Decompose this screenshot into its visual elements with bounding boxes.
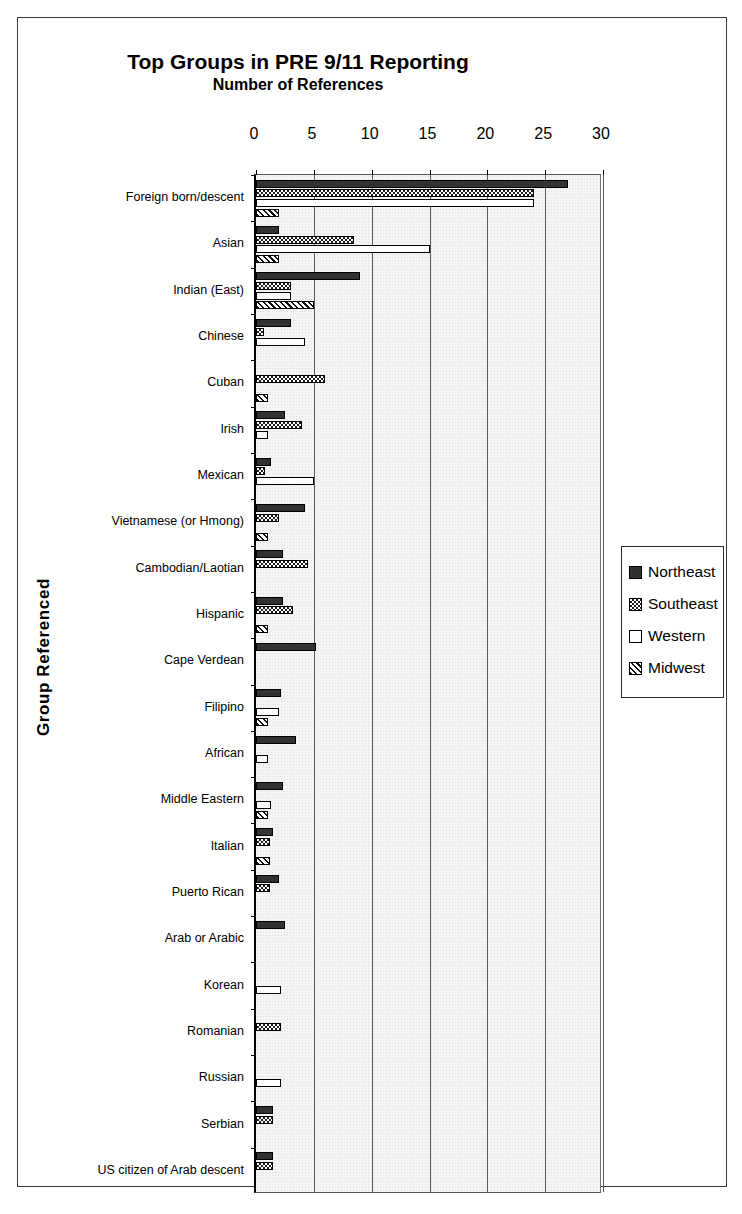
y-axis-label: Cambodian/Laotian bbox=[18, 561, 244, 575]
y-axis-label: Romanian bbox=[18, 1024, 244, 1038]
bar-southeast-9 bbox=[256, 606, 293, 614]
y-axis-label: African bbox=[18, 746, 244, 760]
y-axis-label: Middle Eastern bbox=[18, 792, 244, 806]
gridline-x-10 bbox=[372, 175, 373, 1192]
bar-western-2 bbox=[256, 292, 291, 300]
x-axis-tick-labels: 051015202530 bbox=[237, 125, 603, 147]
bar-midwest-9 bbox=[256, 625, 268, 633]
y-tick-19 bbox=[251, 1055, 256, 1056]
legend-item-midwest[interactable]: Midwest bbox=[629, 652, 723, 684]
legend-label: Western bbox=[648, 627, 705, 645]
bar-northeast-20 bbox=[256, 1106, 273, 1114]
bar-western-1 bbox=[256, 245, 430, 253]
y-tick-4 bbox=[251, 360, 256, 361]
bar-northeast-21 bbox=[256, 1152, 273, 1160]
bar-northeast-7 bbox=[256, 504, 305, 512]
bar-western-17 bbox=[256, 986, 281, 994]
y-axis-label: Vietnamese (or Hmong) bbox=[18, 514, 244, 528]
y-tick-9 bbox=[251, 592, 256, 593]
y-axis-label: Filipino bbox=[18, 700, 244, 714]
bar-western-0 bbox=[256, 199, 534, 207]
y-tick-10 bbox=[251, 638, 256, 639]
legend-swatch-icon bbox=[629, 630, 642, 643]
bar-southeast-7 bbox=[256, 514, 279, 522]
bar-western-6 bbox=[256, 477, 314, 485]
legend-label: Northeast bbox=[648, 563, 715, 581]
bar-northeast-0 bbox=[256, 180, 568, 188]
x-tick-15 bbox=[430, 170, 431, 175]
y-axis-label: Chinese bbox=[18, 329, 244, 343]
x-tick-label-5: 5 bbox=[295, 125, 329, 143]
legend-label: Southeast bbox=[648, 595, 718, 613]
bar-southeast-5 bbox=[256, 421, 302, 429]
y-axis-label: Indian (East) bbox=[18, 283, 244, 297]
y-tick-13 bbox=[251, 777, 256, 778]
y-tick-5 bbox=[251, 407, 256, 408]
y-tick-15 bbox=[251, 870, 256, 871]
plot-area bbox=[254, 174, 601, 1193]
bar-western-5 bbox=[256, 431, 268, 439]
y-axis-label: Korean bbox=[18, 978, 244, 992]
bar-northeast-16 bbox=[256, 921, 285, 929]
gridline-x-15 bbox=[430, 175, 431, 1192]
y-axis-label: Cuban bbox=[18, 375, 244, 389]
legend: NortheastSoutheastWesternMidwest bbox=[621, 546, 724, 698]
gridline-x-20 bbox=[487, 175, 488, 1192]
y-axis-label: Arab or Arabic bbox=[18, 931, 244, 945]
bar-northeast-13 bbox=[256, 782, 283, 790]
chart-frame: Top Groups in PRE 9/11 Reporting Number … bbox=[17, 17, 727, 1187]
bar-southeast-21 bbox=[256, 1162, 273, 1170]
bar-northeast-12 bbox=[256, 736, 296, 744]
plot-background-texture bbox=[256, 175, 600, 1192]
legend-item-western[interactable]: Western bbox=[629, 620, 723, 652]
bar-northeast-6 bbox=[256, 458, 271, 466]
bar-western-12 bbox=[256, 755, 268, 763]
bar-southeast-1 bbox=[256, 236, 354, 244]
y-tick-17 bbox=[251, 962, 256, 963]
y-tick-0 bbox=[251, 175, 256, 176]
gridline-x-5 bbox=[314, 175, 315, 1192]
y-axis-label: US citizen of Arab descent bbox=[18, 1163, 244, 1177]
legend-swatch-icon bbox=[629, 566, 642, 579]
y-axis-label: Russian bbox=[18, 1070, 244, 1084]
bar-northeast-15 bbox=[256, 875, 279, 883]
y-tick-1 bbox=[251, 221, 256, 222]
y-tick-3 bbox=[251, 314, 256, 315]
gridline-x-25 bbox=[545, 175, 546, 1192]
bar-northeast-9 bbox=[256, 597, 283, 605]
x-tick-label-0: 0 bbox=[237, 125, 271, 143]
bar-northeast-8 bbox=[256, 550, 283, 558]
y-axis-label: Hispanic bbox=[18, 607, 244, 621]
gridline-x-30 bbox=[603, 175, 604, 1192]
y-tick-8 bbox=[251, 546, 256, 547]
y-tick-7 bbox=[251, 499, 256, 500]
y-tick-21 bbox=[251, 1148, 256, 1149]
bar-western-19 bbox=[256, 1079, 281, 1087]
bar-western-13 bbox=[256, 801, 271, 809]
y-axis-label: Italian bbox=[18, 839, 244, 853]
bar-northeast-10 bbox=[256, 643, 316, 651]
legend-item-southeast[interactable]: Southeast bbox=[629, 588, 723, 620]
bar-southeast-8 bbox=[256, 560, 308, 568]
x-tick-label-15: 15 bbox=[411, 125, 445, 143]
bar-northeast-2 bbox=[256, 272, 360, 280]
bar-midwest-4 bbox=[256, 394, 268, 402]
x-tick-5 bbox=[314, 170, 315, 175]
y-tick-11 bbox=[251, 685, 256, 686]
bar-southeast-2 bbox=[256, 282, 291, 290]
x-tick-25 bbox=[545, 170, 546, 175]
x-tick-label-10: 10 bbox=[353, 125, 387, 143]
y-tick-18 bbox=[251, 1009, 256, 1010]
bar-midwest-11 bbox=[256, 718, 268, 726]
y-axis-label: Asian bbox=[18, 236, 244, 250]
y-tick-14 bbox=[251, 823, 256, 824]
bar-western-3 bbox=[256, 338, 305, 346]
legend-item-northeast[interactable]: Northeast bbox=[629, 556, 723, 588]
bar-northeast-1 bbox=[256, 226, 279, 234]
bar-northeast-14 bbox=[256, 828, 273, 836]
bar-northeast-11 bbox=[256, 689, 281, 697]
x-tick-0 bbox=[256, 170, 257, 175]
bar-southeast-18 bbox=[256, 1023, 281, 1031]
chart-subtitle: Number of References bbox=[18, 76, 578, 94]
bar-midwest-0 bbox=[256, 209, 279, 217]
